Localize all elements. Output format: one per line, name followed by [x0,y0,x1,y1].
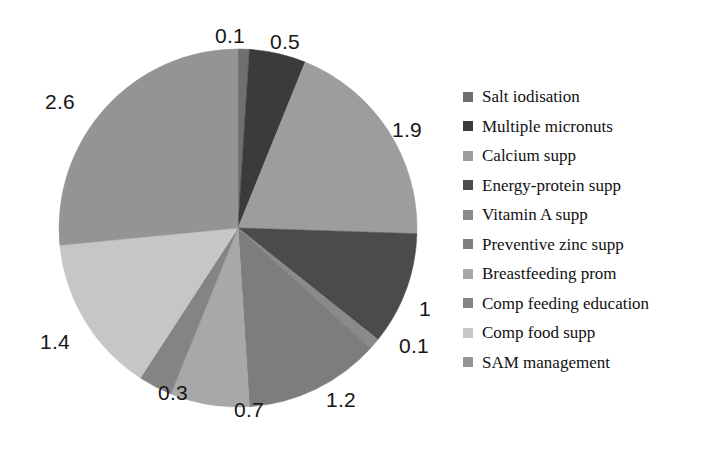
legend-swatch-icon [463,357,473,367]
legend-swatch-icon [463,92,473,102]
pie-chart-figure: 0.10.51.910.11.20.70.31.42.6 Salt iodisa… [0,0,712,469]
pie-value-label: 0.5 [270,30,300,54]
legend-item[interactable]: Vitamin A supp [463,200,703,230]
legend-item-label: Vitamin A supp [482,206,588,223]
legend-swatch-icon [463,121,473,131]
legend-item[interactable]: Comp feeding education [463,289,703,319]
pie-value-label: 1.9 [392,118,422,142]
pie-value-label: 0.3 [158,381,188,405]
legend-item[interactable]: Preventive zinc supp [463,230,703,260]
legend-swatch-icon [463,180,473,190]
legend-item[interactable]: Comp food supp [463,318,703,348]
legend-swatch-icon [463,151,473,161]
legend-item-label: SAM management [482,354,610,371]
legend-item-label: Comp food supp [482,324,595,341]
legend-swatch-icon [463,298,473,308]
pie-value-label: 1.2 [326,388,356,412]
legend-item-label: Breastfeeding prom [482,265,617,282]
legend-item[interactable]: Energy-protein supp [463,171,703,201]
pie-value-label: 2.6 [45,90,75,114]
pie-chart-plot-area [58,48,418,408]
pie-value-label: 0.1 [399,334,429,358]
legend-swatch-icon [463,239,473,249]
pie-slice-group [59,49,417,407]
legend-item[interactable]: Breastfeeding prom [463,259,703,289]
legend-swatch-icon [463,269,473,279]
legend-item[interactable]: SAM management [463,348,703,378]
legend-item-label: Multiple micronuts [482,118,613,135]
legend-item-label: Calcium supp [482,147,576,164]
pie-value-label: 0.7 [234,398,264,422]
legend-item[interactable]: Calcium supp [463,141,703,171]
legend-item-label: Salt iodisation [482,88,580,105]
pie-value-label: 1 [419,297,431,321]
legend-swatch-icon [463,328,473,338]
legend-item[interactable]: Multiple micronuts [463,112,703,142]
pie-value-label: 0.1 [215,24,245,48]
chart-legend: Salt iodisationMultiple micronutsCalcium… [463,82,703,377]
legend-item-label: Energy-protein supp [482,177,621,194]
pie-slice[interactable] [59,49,238,245]
legend-item[interactable]: Salt iodisation [463,82,703,112]
pie-svg [58,48,418,408]
pie-value-label: 1.4 [40,330,70,354]
legend-swatch-icon [463,210,473,220]
legend-item-label: Preventive zinc supp [482,236,624,253]
legend-item-label: Comp feeding education [482,295,649,312]
